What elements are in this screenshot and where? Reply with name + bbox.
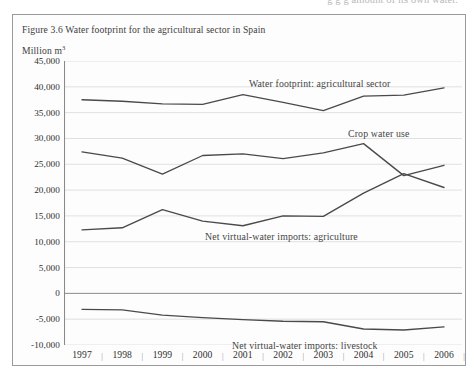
x-axis-tick-mark: |: [222, 352, 224, 361]
y-axis-unit-superscript: 3: [62, 44, 65, 51]
x-axis-tick-label: 1998: [112, 349, 132, 360]
series-label: Net virtual-water imports: livestock: [232, 340, 378, 351]
x-axis-tick-label: 2000: [193, 349, 213, 360]
series-label: Water footprint: agricultural sector: [249, 78, 390, 89]
x-axis-tick-label: 1997: [72, 349, 92, 360]
x-axis-tick-mark: |: [142, 352, 144, 361]
y-axis-tick-label: -10,000: [12, 340, 60, 350]
series-line-0: [82, 88, 444, 111]
x-axis-tick-mark: |: [343, 352, 345, 361]
figure-caption: Figure 3.6 Water footprint for the agric…: [22, 24, 265, 35]
page-bleed-text-content: g g g amount of its own water.: [327, 0, 458, 5]
series-line-2: [82, 174, 444, 230]
x-axis-tick-mark: |: [262, 352, 264, 361]
y-axis-tick-label: 30,000: [12, 133, 60, 143]
page-bleed-text: g g g amount of its own water.: [0, 0, 474, 13]
line-chart-svg: [64, 61, 462, 345]
y-axis-tick-label: 0: [12, 288, 60, 298]
x-axis-tick-label: 2005: [394, 349, 414, 360]
x-axis-tick-mark: |: [383, 352, 385, 361]
y-axis-tick-labels: 45,00040,00035,00030,00025,00020,00015,0…: [12, 55, 60, 351]
y-axis-tick-label: 10,000: [12, 237, 60, 247]
series-label: Net virtual-water imports: agriculture: [205, 231, 358, 242]
y-axis-tick-label: 35,000: [12, 108, 60, 118]
series-label: Crop water use: [348, 128, 409, 139]
y-axis-tick-label: 40,000: [12, 82, 60, 92]
x-axis-tick-mark: |: [463, 352, 465, 361]
x-axis-tick-labels: 1997|1998|1999|2000|2001|2002|2003|2004|…: [64, 349, 466, 369]
series-line-3: [82, 309, 444, 330]
y-axis-tick-label: 25,000: [12, 159, 60, 169]
series-line-1: [82, 144, 444, 176]
chart-plot-area: [64, 61, 462, 345]
x-axis-tick-label: 1999: [153, 349, 173, 360]
y-axis-tick-label: 45,000: [12, 56, 60, 66]
x-axis-tick-mark: |: [182, 352, 184, 361]
y-axis-tick-label: 20,000: [12, 185, 60, 195]
y-axis-tick-label: -5,000: [12, 314, 60, 324]
x-axis-tick-mark: |: [302, 352, 304, 361]
x-axis-tick-label: 2006: [434, 349, 454, 360]
x-axis-tick-mark: |: [423, 352, 425, 361]
y-axis-tick-label: 5,000: [12, 263, 60, 273]
x-axis-tick-mark: |: [101, 352, 103, 361]
y-axis-tick-label: 15,000: [12, 211, 60, 221]
